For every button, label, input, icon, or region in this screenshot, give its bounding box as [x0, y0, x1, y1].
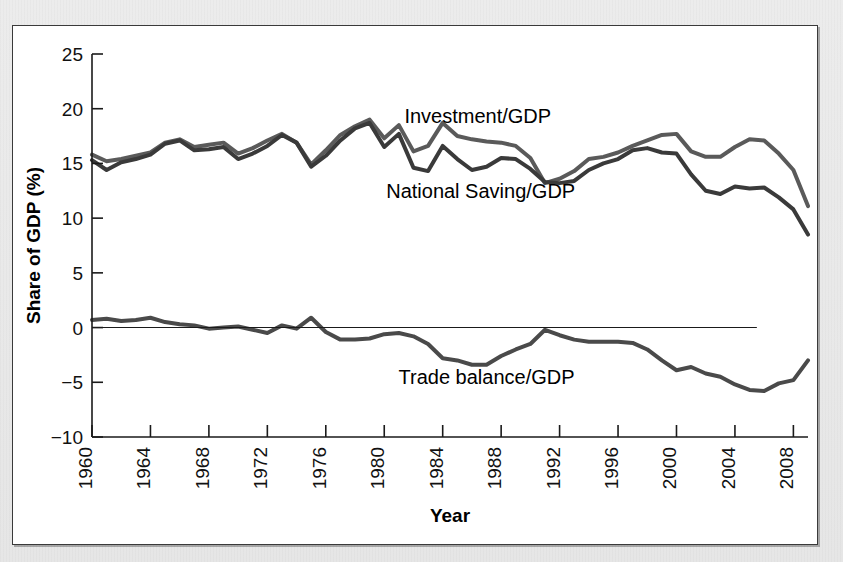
figure-frame	[12, 25, 818, 545]
figure-root: 2520151050−5−101960196419681972197619801…	[0, 0, 843, 562]
